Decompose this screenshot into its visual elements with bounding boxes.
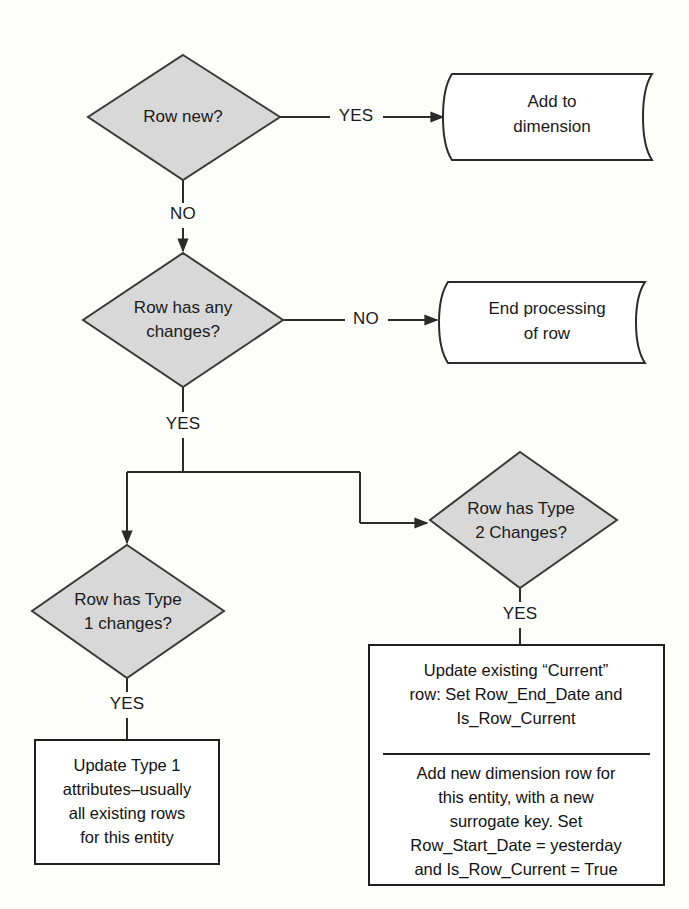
row-has-type2-diamond-shape xyxy=(430,452,617,588)
row-has-type1-diamond-shape xyxy=(32,545,224,678)
row-has-type1-label-line2: 1 changes? xyxy=(84,614,172,633)
node-update-type1[interactable]: Update Type 1 attributes–usually all exi… xyxy=(35,740,219,864)
node-type2-action[interactable]: Update existing “Current” row: Set Row_E… xyxy=(369,645,664,885)
flowchart-canvas: Row new? Add to dimension Row has any ch… xyxy=(0,0,689,909)
type2-action-lower-line1: Add new dimension row for xyxy=(416,764,616,782)
add-to-dimension-label-line1: Add to xyxy=(527,92,576,111)
row-new-label-line1: Row new? xyxy=(143,107,222,126)
node-row-new[interactable]: Row new? xyxy=(88,55,280,180)
edge-label-any-changes-yes: YES xyxy=(166,414,201,433)
flowchart-svg: Row new? Add to dimension Row has any ch… xyxy=(0,0,689,909)
update-type1-label-line1: Update Type 1 xyxy=(73,756,180,774)
end-processing-label-line2: of row xyxy=(524,324,571,343)
update-type1-label-line3: all existing rows xyxy=(69,804,185,822)
update-type1-label-line4: for this entity xyxy=(80,828,174,846)
edge-label-type2-yes: YES xyxy=(503,604,538,623)
row-has-any-changes-label-line1: Row has any xyxy=(134,298,233,317)
node-row-has-type2[interactable]: Row has Type 2 Changes? xyxy=(430,452,617,588)
end-processing-tape-shape xyxy=(439,282,645,363)
edge-label-row-new-yes: YES xyxy=(339,106,374,125)
add-to-dimension-label-line2: dimension xyxy=(513,117,591,136)
edge-label-any-changes-no: NO xyxy=(353,309,379,328)
node-end-processing[interactable]: End processing of row xyxy=(439,282,645,363)
row-has-type2-label-line2: 2 Changes? xyxy=(475,523,567,542)
type2-action-lower-line5: and Is_Row_Current = True xyxy=(414,860,617,879)
row-has-type2-label-line1: Row has Type xyxy=(467,499,574,518)
type2-action-lower-line3: surrogate key. Set xyxy=(450,812,583,830)
type2-action-upper-line2: row: Set Row_End_Date and xyxy=(410,685,623,704)
type2-action-lower-line2: this entity, with a new xyxy=(438,788,594,806)
edge-label-row-new-no: NO xyxy=(170,204,196,223)
update-type1-label-line2: attributes–usually xyxy=(63,780,192,798)
row-has-any-changes-diamond-shape xyxy=(83,253,283,387)
type2-action-upper-line1: Update existing “Current” xyxy=(424,661,608,679)
type2-action-upper-line3: Is_Row_Current xyxy=(456,709,576,728)
type2-action-lower-line4: Row_Start_Date = yesterday xyxy=(410,836,622,855)
row-has-type1-label-line1: Row has Type xyxy=(74,590,181,609)
end-processing-label-line1: End processing xyxy=(488,299,605,318)
node-row-has-any-changes[interactable]: Row has any changes? xyxy=(83,253,283,387)
row-has-any-changes-label-line2: changes? xyxy=(146,322,220,341)
node-row-has-type1[interactable]: Row has Type 1 changes? xyxy=(32,545,224,678)
edge-label-type1-yes: YES xyxy=(110,694,145,713)
node-add-to-dimension[interactable]: Add to dimension xyxy=(443,74,652,160)
